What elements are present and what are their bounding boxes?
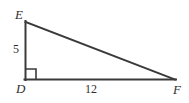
hypotenuse-line bbox=[26, 22, 176, 80]
vertex-label-f: F bbox=[173, 83, 181, 96]
vertex-label-e: E bbox=[15, 8, 23, 21]
geometry-figure: E D F 5 12 bbox=[0, 0, 189, 103]
side-measure-df: 12 bbox=[85, 83, 97, 95]
vertex-label-d: D bbox=[16, 82, 25, 95]
side-measure-de: 5 bbox=[13, 43, 19, 55]
right-angle-marker-icon bbox=[26, 69, 36, 79]
